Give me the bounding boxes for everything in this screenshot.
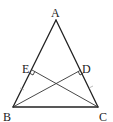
- segment-ab: [13, 20, 56, 107]
- triangle-diagram: A B C D E: [0, 0, 113, 122]
- label-a: A: [51, 6, 60, 20]
- tick-mark-cd: [89, 86, 93, 88]
- label-b: B: [3, 110, 11, 122]
- segment-ac: [56, 20, 98, 107]
- label-d: D: [82, 62, 91, 76]
- label-e: E: [22, 62, 29, 76]
- label-c: C: [99, 110, 107, 122]
